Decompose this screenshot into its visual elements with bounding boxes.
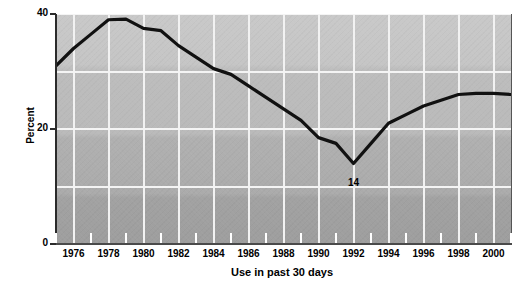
y-axis-tick <box>50 13 56 15</box>
y-axis-tick-label: 0 <box>26 237 48 248</box>
x-axis-tick <box>440 233 442 243</box>
x-axis-tick <box>125 233 127 243</box>
x-axis-tick <box>475 233 477 243</box>
x-axis-tick <box>55 233 57 243</box>
x-axis-line <box>56 243 512 245</box>
data-series-line <box>56 14 511 244</box>
x-axis-tick <box>335 233 337 243</box>
x-axis-tick <box>90 233 92 243</box>
x-axis-tick <box>370 233 372 243</box>
x-axis-title: Use in past 30 days <box>0 266 524 278</box>
chart-container: 31391426 1976197819801982198419861988199… <box>0 0 524 290</box>
x-axis-tick <box>300 233 302 243</box>
x-axis-tick <box>510 233 512 243</box>
y-axis-tick <box>50 243 56 245</box>
x-axis-tick <box>195 233 197 243</box>
x-axis-tick <box>230 233 232 243</box>
x-axis-tick <box>405 233 407 243</box>
y-axis-tick-label: 40 <box>26 7 48 18</box>
plot-area: 31391426 <box>56 14 512 244</box>
x-axis-tick-label: 2000 <box>471 248 517 259</box>
line-path <box>56 19 511 163</box>
x-axis-tick <box>265 233 267 243</box>
data-point-label: 14 <box>348 176 359 187</box>
y-axis-tick <box>50 128 56 130</box>
y-axis-title: Percent <box>25 90 36 162</box>
x-axis-tick <box>160 233 162 243</box>
